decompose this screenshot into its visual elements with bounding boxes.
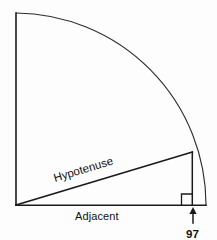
adjacent-label: Adjacent xyxy=(75,210,119,222)
right-angle-marker xyxy=(182,194,193,205)
diagram-svg: Hypotenuse Adjacent 97 xyxy=(0,0,217,240)
opposite-value-label: 97 xyxy=(186,228,199,240)
measure-arrow-head xyxy=(189,207,196,214)
hypotenuse-label: Hypotenuse xyxy=(52,155,114,184)
geometry-diagram-canvas: Hypotenuse Adjacent 97 xyxy=(0,0,217,240)
